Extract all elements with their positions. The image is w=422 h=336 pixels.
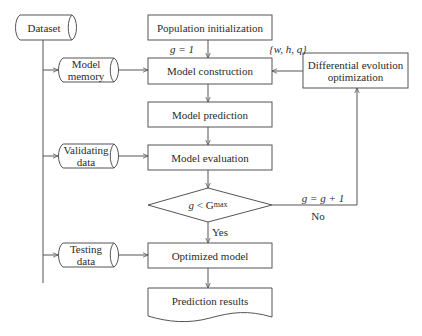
model-memory-label: Model memory: [60, 58, 112, 82]
differential-evolution-line2: optimization: [328, 71, 384, 83]
edge-label-g-init: g = 1: [170, 43, 206, 55]
optimized-model-label: Optimized model: [148, 243, 272, 268]
testing-data-line1: Testing: [70, 243, 102, 255]
validating-data-label: Validating data: [60, 144, 112, 168]
decision-var: g: [189, 199, 195, 211]
decision-label: g < Gmax: [170, 196, 246, 214]
validating-data-line1: Validating: [63, 144, 108, 156]
decision-op: <: [197, 199, 203, 211]
differential-evolution-label: Differential evolution optimization: [303, 53, 408, 88]
edge-label-g-increment: g = g + 1: [295, 192, 351, 204]
prediction-results-label: Prediction results: [148, 290, 272, 312]
model-construction-label: Model construction: [148, 58, 272, 84]
edge-label-yes: Yes: [212, 226, 238, 238]
population-init-label: Population initialization: [148, 15, 272, 40]
model-evaluation-label: Model evaluation: [148, 145, 272, 170]
dataset-label: Dataset: [18, 15, 70, 40]
edge-label-params: {w, h, q}: [265, 43, 311, 55]
model-memory-line1: Model: [72, 58, 101, 70]
validating-data-line2: data: [77, 156, 95, 168]
model-prediction-label: Model prediction: [148, 102, 272, 127]
testing-data-line2: data: [77, 255, 95, 267]
decision-sub: max: [214, 199, 228, 211]
differential-evolution-line1: Differential evolution: [308, 59, 403, 71]
testing-data-label: Testing data: [60, 243, 112, 267]
edge-label-no: No: [305, 210, 331, 222]
model-memory-line2: memory: [68, 70, 105, 82]
decision-G: G: [206, 199, 214, 211]
